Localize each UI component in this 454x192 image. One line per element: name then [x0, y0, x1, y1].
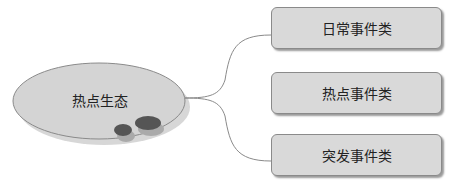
branch-label: 突发事件类: [322, 145, 392, 165]
small-dot: [114, 124, 132, 136]
connector-bottom: [185, 98, 271, 161]
branch-box-daily: 日常事件类: [271, 7, 442, 49]
center-label: 热点生态: [50, 90, 150, 110]
branch-box-hot: 热点事件类: [271, 72, 442, 114]
connector-top: [185, 35, 271, 98]
branch-label: 热点事件类: [322, 83, 392, 103]
branch-label: 日常事件类: [322, 18, 392, 38]
branch-box-emergency: 突发事件类: [271, 134, 442, 176]
large-dot: [135, 116, 161, 130]
